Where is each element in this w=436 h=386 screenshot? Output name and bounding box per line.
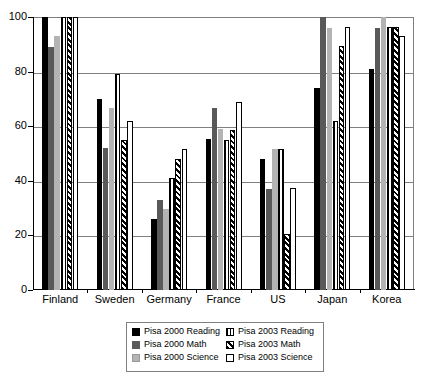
bar-us-s2 — [272, 149, 278, 290]
legend-label: Pisa 2000 Math — [144, 339, 207, 350]
group-separator-4 — [251, 289, 252, 293]
bar-france-s0 — [206, 139, 212, 291]
legend-label: Pisa 2003 Math — [238, 339, 301, 350]
bar-korea-s0 — [369, 69, 375, 290]
bar-france-s4 — [230, 130, 236, 290]
legend-item-pisa-2000-math[interactable]: Pisa 2000 Math — [132, 339, 220, 350]
legend-swatch-icon-s0 — [132, 328, 140, 336]
bar-sweden-s0 — [97, 99, 103, 290]
bar-japan-s5 — [345, 27, 351, 290]
bar-korea-s3 — [387, 27, 393, 290]
bar-korea-s2 — [381, 17, 387, 290]
bar-finland-s2 — [54, 36, 60, 290]
bar-japan-s2 — [327, 28, 333, 290]
bar-germany-s2 — [163, 209, 169, 290]
legend-swatch-icon-s1 — [132, 341, 140, 349]
bar-sweden-s5 — [127, 121, 133, 290]
bar-us-s4 — [284, 234, 290, 290]
legend-swatch-icon-s2 — [132, 354, 140, 362]
bar-sweden-s3 — [115, 74, 121, 290]
bars-clip — [33, 17, 414, 290]
bar-finland-s1 — [48, 47, 54, 290]
y-tick-label-60: 60 — [0, 120, 27, 131]
bar-sweden-s4 — [121, 140, 127, 290]
group-separator-3 — [196, 289, 197, 293]
bar-japan-s4 — [339, 46, 345, 290]
bar-japan-s0 — [314, 88, 320, 290]
bar-chart: 100806040200 FinlandSwedenGermanyFranceU… — [0, 0, 436, 386]
bar-us-s3 — [278, 149, 284, 290]
legend-label: Pisa 2003 Science — [238, 352, 313, 363]
bar-france-s3 — [224, 140, 230, 290]
bar-germany-s1 — [157, 200, 163, 290]
bar-finland-s4 — [67, 17, 73, 290]
bar-sweden-s2 — [109, 108, 115, 290]
y-tick-label-100: 100 — [0, 11, 27, 22]
group-separator-2 — [142, 289, 143, 293]
legend-column-2003: Pisa 2003 ReadingPisa 2003 MathPisa 2003… — [226, 326, 314, 363]
bar-korea-s4 — [393, 27, 399, 290]
bar-japan-s3 — [333, 121, 339, 290]
legend-label: Pisa 2000 Science — [144, 352, 219, 363]
chart-legend: Pisa 2000 ReadingPisa 2000 MathPisa 2000… — [126, 322, 324, 372]
legend-item-pisa-2003-reading[interactable]: Pisa 2003 Reading — [226, 326, 314, 337]
bar-finland-s3 — [61, 17, 67, 290]
group-separator-1 — [87, 289, 88, 293]
legend-item-pisa-2003-science[interactable]: Pisa 2003 Science — [226, 352, 314, 363]
bar-korea-s5 — [399, 36, 405, 290]
bar-france-s1 — [212, 108, 218, 290]
y-tick-label-80: 80 — [0, 66, 27, 77]
bar-us-s5 — [290, 188, 296, 290]
legend-item-pisa-2003-math[interactable]: Pisa 2003 Math — [226, 339, 314, 350]
bar-finland-s0 — [42, 17, 48, 290]
bar-germany-s5 — [182, 149, 188, 290]
bar-france-s5 — [236, 102, 242, 290]
legend-swatch-icon-s3 — [226, 328, 234, 336]
legend-item-pisa-2000-reading[interactable]: Pisa 2000 Reading — [132, 326, 220, 337]
bar-germany-s0 — [151, 219, 157, 290]
bar-germany-s3 — [169, 178, 175, 290]
bar-japan-s1 — [320, 17, 326, 290]
group-separator-6 — [360, 289, 361, 293]
bar-sweden-s1 — [103, 148, 109, 290]
bar-finland-s5 — [73, 17, 79, 290]
bar-us-s0 — [260, 159, 266, 290]
y-tick-label-40: 40 — [0, 175, 27, 186]
y-tick-label-20: 20 — [0, 229, 27, 240]
legend-swatch-icon-s4 — [226, 341, 234, 349]
legend-column-2000: Pisa 2000 ReadingPisa 2000 MathPisa 2000… — [132, 326, 220, 363]
legend-label: Pisa 2000 Reading — [144, 326, 220, 337]
y-tick-mark-0 — [28, 290, 33, 291]
bar-france-s2 — [218, 129, 224, 290]
legend-swatch-icon-s5 — [226, 354, 234, 362]
legend-item-pisa-2000-science[interactable]: Pisa 2000 Science — [132, 352, 220, 363]
bar-us-s1 — [266, 189, 272, 290]
legend-label: Pisa 2003 Reading — [238, 326, 314, 337]
bar-korea-s1 — [375, 28, 381, 290]
bar-germany-s4 — [175, 159, 181, 290]
group-separator-5 — [305, 289, 306, 293]
x-label-korea: Korea — [347, 293, 427, 306]
